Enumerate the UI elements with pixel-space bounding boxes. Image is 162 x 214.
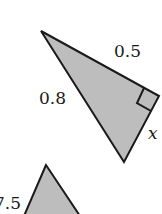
side-label-hypotenuse: 0.8 xyxy=(39,90,66,107)
side-label-second-left: 7.5 xyxy=(0,195,21,212)
second-triangle xyxy=(24,165,80,214)
side-label-top-leg: 0.5 xyxy=(114,43,141,60)
diagram-canvas: 0.5 0.8 x 7.5 xyxy=(0,0,162,214)
triangles-figure xyxy=(0,0,162,214)
side-label-unknown-x: x xyxy=(148,125,158,142)
